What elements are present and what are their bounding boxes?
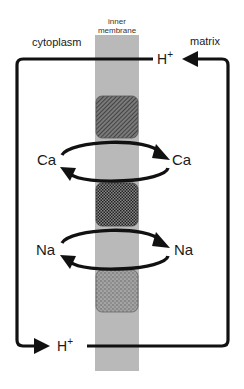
h-ion-top: H+ <box>157 51 173 67</box>
h-ion-bottom-symbol: H <box>57 338 67 354</box>
h-ion-top-charge: + <box>167 49 173 60</box>
ca-arrowhead-left <box>60 167 76 181</box>
na-arrowhead-left <box>60 255 76 269</box>
membrane-label: inner membrane <box>96 17 138 35</box>
ca-ion-right: Ca <box>172 151 191 168</box>
h-ion-bottom-charge: + <box>67 336 73 347</box>
ca-arrowhead-right <box>152 144 170 160</box>
membrane-label-line1: inner <box>96 17 138 26</box>
matrix-label: matrix <box>190 35 220 47</box>
h-ion-bottom: H+ <box>57 338 73 354</box>
ion-exchange-diagram: inner membrane cytoplasm matrix H+ H+ Ca… <box>0 0 244 389</box>
membrane-label-line2: membrane <box>96 26 138 35</box>
transporter-top <box>96 96 138 138</box>
transporter-bottom <box>96 270 138 312</box>
arrowhead-top-right <box>182 51 198 67</box>
diagram-canvas <box>0 0 244 389</box>
arrowhead-bottom-left <box>34 338 50 354</box>
cytoplasm-label: cytoplasm <box>32 36 82 48</box>
na-ion-left: Na <box>36 241 55 258</box>
ca-ion-left: Ca <box>37 151 56 168</box>
transporter-middle <box>96 183 138 226</box>
na-arrowhead-right <box>152 232 170 248</box>
h-ion-top-symbol: H <box>157 51 167 67</box>
na-ion-right: Na <box>174 241 193 258</box>
